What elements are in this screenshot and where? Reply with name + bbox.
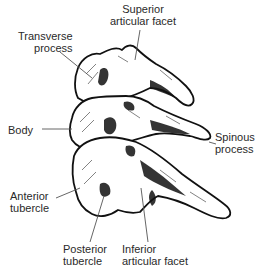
label-superior-articular-facet: Superior articular facet — [110, 3, 176, 27]
label-posterior-tubercle: Posterior tubercle — [63, 243, 107, 267]
label-transverse-process: Transverse process — [18, 30, 73, 54]
label-body: Body — [8, 124, 33, 136]
label-inferior-articular-facet: Inferior articular facet — [122, 243, 188, 267]
label-spinous-process: Spinous process — [215, 131, 255, 155]
label-anterior-tubercle: Anterior tubercle — [10, 190, 49, 214]
vertebrae-diagram: Superior articular facet Transverse proc… — [0, 0, 261, 273]
